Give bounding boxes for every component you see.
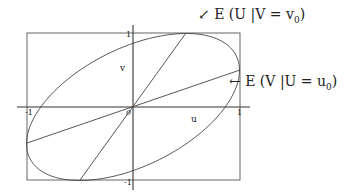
formula-close: ) (300, 6, 305, 22)
annotation-E-V-given-U: ← E (V |U = u0) (229, 73, 337, 92)
v-tick-neg1: -1 (124, 178, 132, 187)
origin-label: 0 (126, 108, 131, 117)
v-tick-1: 1 (126, 30, 131, 39)
formula-close: ) (332, 73, 337, 89)
v-axis-label: v (120, 63, 125, 73)
u-axis-label: u (191, 114, 197, 124)
arrow-southwest-icon: ↙ (198, 6, 210, 22)
diagram-canvas (0, 0, 346, 194)
u-tick-1: 1 (237, 108, 242, 117)
formula-text: E (V |U = u (245, 73, 326, 89)
formula-text: E (U |V = v (214, 6, 294, 22)
annotation-E-U-given-V: ↙ E (U |V = v0) (198, 6, 305, 25)
u-tick-neg1: -1 (25, 108, 33, 117)
arrow-left-icon: ← (229, 73, 241, 89)
